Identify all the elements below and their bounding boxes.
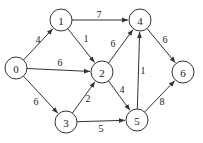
- nodes-layer: 0123456: [5, 9, 194, 133]
- node-label: 6: [180, 67, 186, 79]
- edge-arrow-icon: [72, 82, 95, 113]
- edge-weight-label: 4: [36, 34, 41, 45]
- edge-weight-label: 6: [34, 96, 39, 107]
- node-label: 3: [63, 117, 69, 129]
- edge-arrow-icon: [77, 120, 125, 121]
- edge-arrow-icon: [27, 69, 90, 72]
- edge-5-6: 8: [145, 81, 175, 112]
- edge-0-2: 6: [27, 57, 90, 72]
- edge-weight-label: 6: [111, 38, 116, 49]
- edge-2-4: 6: [108, 30, 132, 63]
- edge-weight-label: 1: [141, 65, 146, 76]
- edge-arrow-icon: [23, 76, 57, 113]
- graph-diagram: 466716245168 0123456: [0, 0, 203, 143]
- edge-weight-label: 5: [99, 123, 104, 134]
- edge-weight-label: 6: [58, 57, 63, 68]
- edge-4-6: 6: [147, 28, 175, 62]
- node-2: 2: [91, 61, 113, 83]
- node-3: 3: [55, 111, 77, 133]
- edge-weight-label: 4: [120, 84, 125, 95]
- node-5: 5: [126, 109, 148, 131]
- edge-5-4: 1: [137, 32, 145, 109]
- node-label: 4: [137, 15, 143, 27]
- edge-3-2: 2: [72, 82, 95, 113]
- node-1: 1: [50, 9, 72, 31]
- node-label: 1: [58, 15, 64, 27]
- edge-arrow-icon: [68, 29, 95, 63]
- edge-0-1: 4: [24, 29, 53, 60]
- node-label: 0: [13, 63, 19, 75]
- node-label: 2: [99, 67, 105, 79]
- edge-arrow-icon: [137, 32, 139, 109]
- edge-weight-label: 6: [163, 34, 168, 45]
- edge-1-2: 1: [68, 29, 95, 63]
- edge-3-5: 5: [77, 120, 125, 133]
- node-6: 6: [172, 61, 194, 83]
- edge-weight-label: 2: [86, 93, 91, 104]
- edge-weight-label: 7: [97, 9, 102, 20]
- node-4: 4: [129, 9, 151, 31]
- edge-arrow-icon: [147, 28, 175, 62]
- node-0: 0: [5, 57, 27, 79]
- edge-2-5: 4: [108, 81, 129, 110]
- edge-weight-label: 8: [160, 96, 165, 107]
- node-label: 5: [134, 115, 140, 127]
- edge-1-4: 7: [72, 9, 128, 21]
- edge-weight-label: 1: [84, 33, 89, 44]
- edge-0-3: 6: [23, 76, 57, 113]
